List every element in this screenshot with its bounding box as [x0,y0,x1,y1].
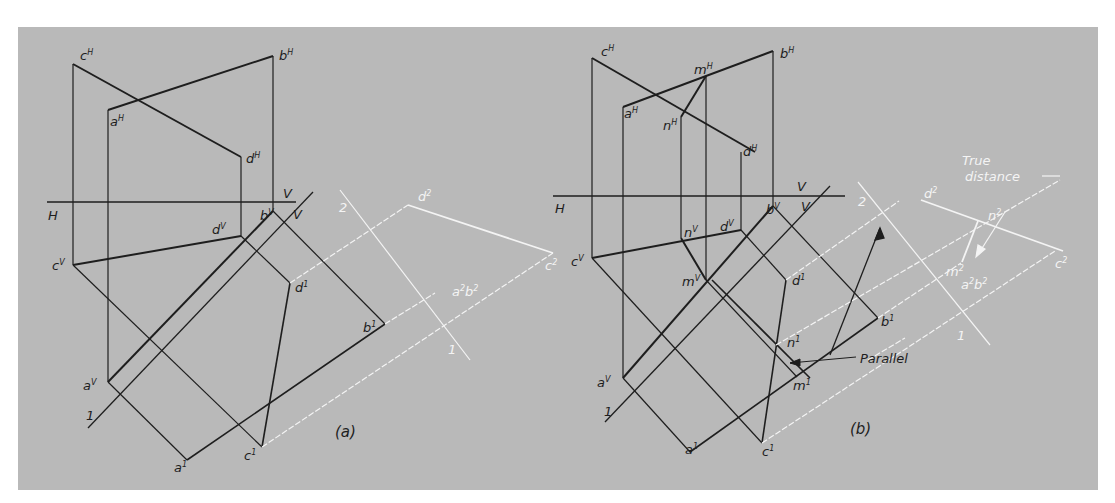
label-a1-b: a1 [685,442,698,457]
label-plane-1-a: 1 [448,342,456,357]
label-aV-b: aV [597,375,611,390]
label-c2-b: c2 [1055,256,1067,271]
label-V-top-a: V [283,186,293,201]
caption-b: (b) [850,420,871,438]
label-m1-b: m1 [793,378,811,393]
projectors-v1-b [592,206,878,452]
label-bH-b: bH [780,46,794,61]
front-view-lines-a [73,211,273,382]
front-view-lines-b [592,206,773,378]
descriptive-geometry-figure: cH bH aH dH H V V cV aV dV bV a1 c1 d1 b… [0,0,1115,503]
label-plane-1-b: 1 [957,328,965,343]
label-c2-a: c2 [545,258,557,273]
label-V-diag-a: V [293,207,303,222]
label-distance-b: distance [965,169,1020,184]
caption-a: (a) [335,423,356,441]
label-true-b: True [962,153,991,168]
projectors-b [592,51,773,378]
aux-view-2-construction-a [262,190,553,447]
label-H-b: H [555,201,565,216]
label-aH-a: aH [110,114,124,129]
parallel-leader-b [790,357,856,366]
panel-a: cH bH aH dH H V V cV aV dV bV a1 c1 d1 b… [47,48,557,475]
top-view-lines-b [592,51,773,152]
label-bH-a: bH [279,48,293,63]
label-d1-a: d1 [295,280,308,295]
label-parallel-b: Parallel [860,351,908,366]
label-b1-b: b1 [881,314,894,329]
label-H-a: H [48,208,58,223]
label-d2-a: d2 [418,189,431,204]
label-cV-a: cV [52,258,65,273]
label-plane-2-b: 2 [858,194,866,209]
arrow-direction-b [830,228,884,355]
label-a1-a: a1 [174,460,187,475]
label-dV-a: dV [212,222,226,237]
label-bV-b: bV [766,202,780,217]
label-plane-2-a: 2 [339,200,347,215]
label-nH-b: nH [663,118,677,133]
label-n1-b: n1 [787,335,800,350]
projectors-a [73,56,273,382]
aux-view-2-line-a [408,205,553,253]
label-V-diag-b: V [801,199,811,214]
label-d1-b: d1 [792,273,805,288]
panel-b: cH bH mH aH nH dH H V V cV nV dV bV mV a… [553,44,1067,459]
label-cH-a: cH [80,48,93,63]
fold-line-v1-a [88,192,313,428]
label-bV-a: bV [260,208,274,223]
label-mV-b: mV [682,274,701,289]
label-cH-b: cH [601,44,614,59]
label-a2b2-b: a2b2 [961,277,987,292]
top-view-lines-a [73,56,273,157]
label-c1-b: c1 [762,444,774,459]
label-dH-a: dH [246,151,260,166]
label-a2b2-a: a2b2 [452,284,478,299]
aux-view-2-construction-b [762,180,1060,443]
label-c1-a: c1 [244,448,256,463]
label-d2-b: d2 [924,186,937,201]
label-b1-a: b1 [363,320,376,335]
label-line-1-a: 1 [86,408,94,423]
label-dH-b: dH [743,144,757,159]
label-aH-b: aH [624,106,638,121]
label-line-1-b: 1 [604,404,612,419]
label-aV-a: aV [83,378,97,393]
label-cV-b: cV [571,254,584,269]
label-V-top-b: V [797,179,807,194]
